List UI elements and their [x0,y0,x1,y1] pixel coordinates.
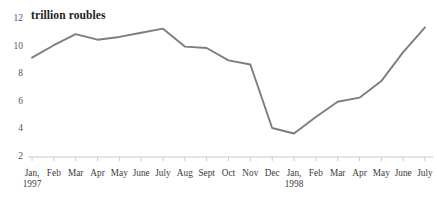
x-tick-month: Feb [47,168,61,178]
x-tick-label: Dec [265,168,280,179]
x-tick-month: Jan, [287,168,302,178]
x-tick-label: June [395,168,412,179]
x-axis: Jan,1997FebMarAprMayJuneJulyAugSeptOctNo… [0,0,437,204]
x-tick-label: Jan,1998 [285,168,304,190]
x-tick-label: Jan,1997 [23,168,42,190]
x-tick-label: July [417,168,433,179]
x-tick-label: Apr [90,168,104,179]
x-tick-month: May [373,168,390,178]
x-tick-label: Mar [68,168,84,179]
x-tick-label: Mar [330,168,346,179]
chart-container: trillion roubles 12108642 Jan,1997FebMar… [0,0,437,204]
x-tick-label: May [111,168,128,179]
x-tick-month: July [417,168,433,178]
x-tick-month: May [111,168,128,178]
x-tick-month: Mar [68,168,84,178]
x-tick-label: June [133,168,150,179]
x-tick-month: Nov [242,168,258,178]
x-tick-label: Feb [47,168,61,179]
x-tick-month: Feb [309,168,323,178]
x-tick-month: Apr [90,168,104,178]
x-tick-month: Sept [198,168,215,178]
x-tick-month: Dec [265,168,280,178]
x-tick-label: July [155,168,171,179]
x-tick-month: Oct [222,168,235,178]
x-tick-label: Apr [352,168,366,179]
x-tick-month: Aug [177,168,193,178]
x-tick-label: Sept [198,168,215,179]
x-tick-month: June [133,168,150,178]
x-tick-month: June [395,168,412,178]
x-tick-month: Apr [352,168,366,178]
x-tick-year: 1997 [23,179,42,190]
x-tick-label: May [373,168,390,179]
x-tick-label: Nov [242,168,258,179]
x-tick-label: Feb [309,168,323,179]
x-tick-month: Mar [330,168,346,178]
x-tick-label: Oct [222,168,235,179]
x-tick-label: Aug [177,168,193,179]
x-tick-year: 1998 [285,179,304,190]
x-tick-month: Jan, [25,168,40,178]
x-tick-month: July [155,168,171,178]
